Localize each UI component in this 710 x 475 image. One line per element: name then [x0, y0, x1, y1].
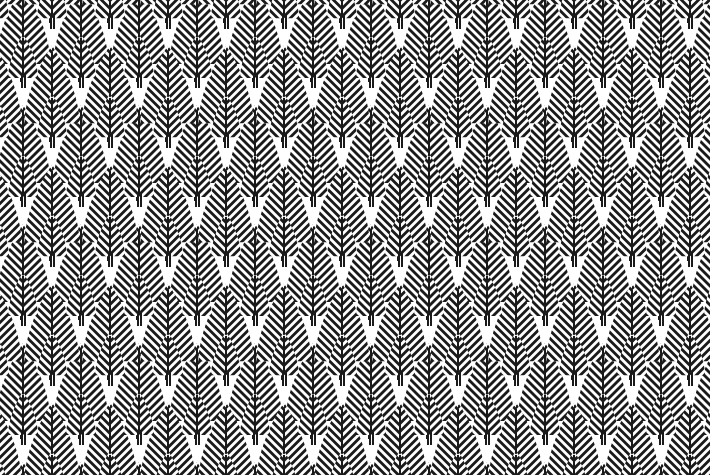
pattern-field — [0, 0, 710, 475]
pattern-canvas: Chevron Tree Seamless Pattern — [0, 0, 710, 475]
